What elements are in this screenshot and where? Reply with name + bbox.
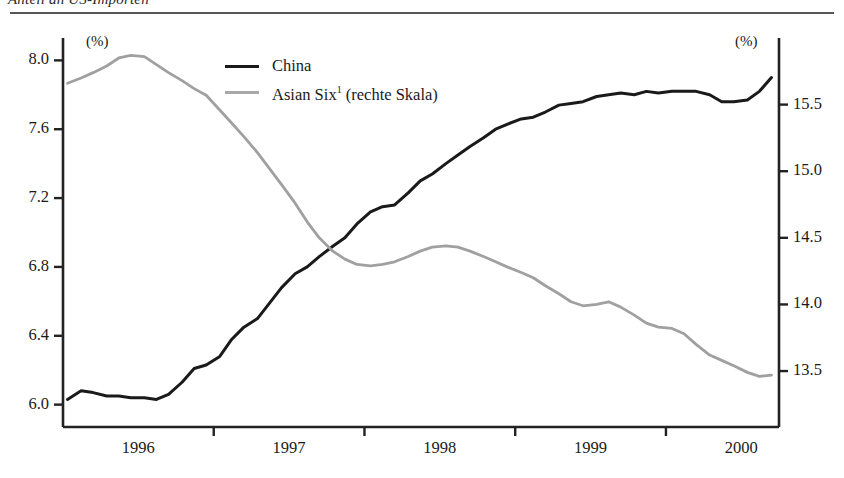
- chart-figure: Anteil an US-Importen (%) (%) China Asia…: [0, 0, 844, 478]
- chart-series-lines: [68, 55, 772, 399]
- right-axis-tick-label: 13.5: [793, 360, 822, 380]
- x-axis-tick-label: 1998: [400, 438, 480, 458]
- series-line-asian-six: [68, 55, 772, 376]
- chart-tick-marks: [54, 60, 788, 436]
- x-axis-tick-label: 1996: [98, 438, 178, 458]
- x-axis-tick-label: 2000: [701, 438, 781, 458]
- x-axis-tick-label: 1999: [551, 438, 631, 458]
- left-axis-tick-label: 7.2: [0, 187, 49, 207]
- left-axis-tick-label: 6.0: [0, 394, 49, 414]
- chart-plot-area: [0, 0, 844, 478]
- x-axis-tick-label: 1997: [249, 438, 329, 458]
- chart-frame: [63, 38, 779, 427]
- right-axis-tick-label: 14.5: [793, 227, 822, 247]
- right-axis-tick-label: 14.0: [793, 293, 822, 313]
- left-axis-tick-label: 7.6: [0, 118, 49, 138]
- left-axis-tick-label: 6.4: [0, 325, 49, 345]
- right-axis-tick-label: 15.0: [793, 160, 822, 180]
- series-line-china: [68, 78, 772, 400]
- left-axis-tick-label: 6.8: [0, 256, 49, 276]
- right-axis-tick-label: 15.5: [793, 94, 822, 114]
- left-axis-tick-label: 8.0: [0, 49, 49, 69]
